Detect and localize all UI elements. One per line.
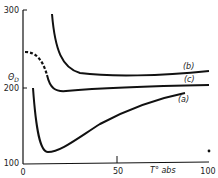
label-c: (c) xyxy=(184,75,195,84)
x-tick-100: 100 xyxy=(200,167,215,176)
curve-c-dashed xyxy=(25,52,47,75)
data-point-marker xyxy=(208,150,211,153)
y-tick-200: 200 xyxy=(4,84,19,93)
y-tick-100: 100 xyxy=(4,159,19,168)
label-b: (b) xyxy=(183,62,194,71)
chart: 300 200 100 0 50 100 T° abs ΘD (b) (c) (… xyxy=(0,0,218,178)
x-axis-label: T° abs xyxy=(150,166,176,175)
x-tick-50: 50 xyxy=(113,167,123,176)
curve-a xyxy=(33,88,185,152)
x-axis xyxy=(23,162,209,164)
y-axis-label: ΘD xyxy=(8,73,19,83)
x-tick-0: 0 xyxy=(20,168,25,177)
label-a: (a) xyxy=(178,95,189,104)
y-tick-300: 300 xyxy=(4,6,19,15)
